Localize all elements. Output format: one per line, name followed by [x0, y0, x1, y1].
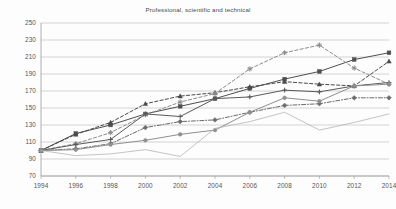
- data-point-marker: [247, 95, 252, 100]
- data-point-marker: [144, 138, 148, 142]
- y-tick-label: 210: [25, 53, 36, 60]
- data-point-marker: [178, 100, 183, 105]
- series-series-5-dashdot-diamond: [39, 95, 392, 152]
- data-point-marker: [109, 143, 113, 147]
- data-point-marker: [247, 66, 252, 71]
- y-tick-label: 150: [25, 104, 36, 111]
- data-point-marker: [387, 59, 392, 63]
- y-tick-label: 70: [29, 172, 37, 179]
- data-point-marker: [178, 114, 183, 119]
- x-tick-label: 2014: [382, 182, 396, 189]
- data-point-marker: [178, 119, 183, 124]
- data-point-marker: [178, 133, 182, 137]
- x-tick-label: 2002: [173, 182, 188, 189]
- y-tick-label: 110: [26, 138, 37, 145]
- data-point-marker: [317, 43, 322, 48]
- data-series-group: [38, 43, 391, 157]
- series-series-1-solid-square-dark: [39, 51, 391, 152]
- chart-container: Professional, scientific and technical 7…: [0, 0, 396, 209]
- x-tick-label: 2008: [277, 182, 292, 189]
- data-point-marker: [387, 82, 391, 86]
- data-point-marker: [318, 99, 322, 103]
- data-point-marker: [283, 96, 287, 100]
- data-point-marker: [282, 88, 287, 93]
- y-tick-label: 170: [25, 87, 36, 94]
- data-point-marker: [248, 110, 252, 114]
- data-point-marker: [352, 58, 356, 62]
- data-point-marker: [212, 91, 217, 96]
- data-point-marker: [352, 84, 356, 88]
- data-point-marker: [317, 90, 322, 95]
- data-point-marker: [318, 70, 322, 74]
- y-axis-tick-labels: 7090110130150170190210230250: [25, 19, 36, 179]
- data-point-marker: [282, 103, 287, 108]
- data-point-marker: [108, 120, 113, 124]
- x-tick-label: 2000: [138, 182, 153, 189]
- series-line: [41, 98, 389, 151]
- x-tick-label: 1994: [34, 182, 49, 189]
- x-tick-label: 2010: [312, 182, 327, 189]
- x-tick-label: 1996: [68, 182, 83, 189]
- data-point-marker: [178, 104, 182, 108]
- y-tick-label: 230: [25, 36, 36, 43]
- series-line: [41, 61, 389, 150]
- data-point-marker: [387, 95, 392, 100]
- line-chart-plot: 7090110130150170190210230250 19941996199…: [0, 0, 396, 209]
- y-tick-label: 250: [25, 19, 36, 26]
- y-tick-label: 90: [29, 155, 37, 162]
- x-axis-tick-labels: 1994199619982000200220042006200820102012…: [34, 176, 396, 189]
- data-point-marker: [282, 50, 287, 55]
- data-point-marker: [352, 66, 357, 71]
- data-point-marker: [143, 125, 148, 130]
- x-tick-label: 2012: [347, 182, 362, 189]
- data-point-marker: [352, 95, 357, 100]
- data-point-marker: [213, 118, 218, 123]
- x-tick-label: 2006: [242, 182, 257, 189]
- x-tick-label: 1998: [103, 182, 118, 189]
- data-point-marker: [387, 51, 391, 55]
- y-tick-label: 130: [25, 121, 36, 128]
- series-line: [41, 53, 389, 151]
- data-point-marker: [74, 148, 78, 152]
- data-point-marker: [108, 130, 113, 135]
- x-tick-label: 2004: [208, 182, 223, 189]
- y-tick-label: 190: [25, 70, 36, 77]
